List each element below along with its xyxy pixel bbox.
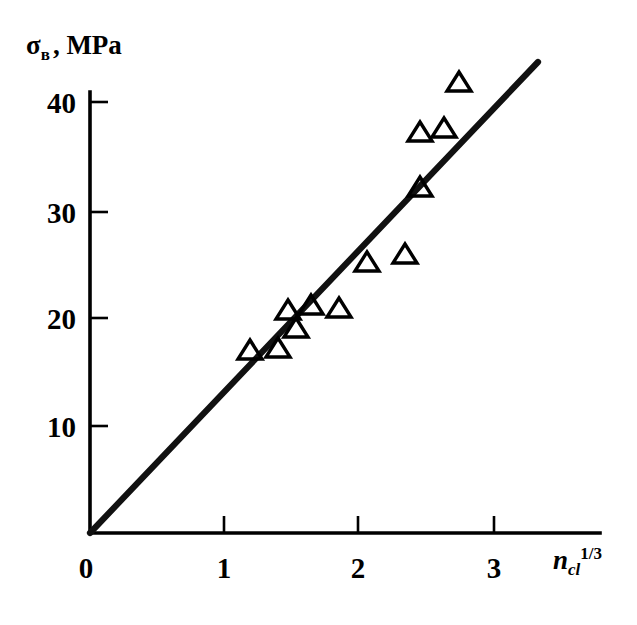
scatter-plot-canvas: 40 30 20 10 0 1 2 3 xyxy=(0,0,637,625)
x-tick-label-2: 2 xyxy=(351,552,366,584)
x-tick-label-0: 0 xyxy=(79,552,94,584)
x-axis-symbol: n xyxy=(553,545,568,575)
x-axis-subscript: cl xyxy=(568,560,580,579)
x-axis-ticks xyxy=(224,516,494,533)
axes-group xyxy=(90,92,600,533)
x-axis-tick-labels: 0 1 2 3 xyxy=(79,552,502,584)
y-tick-label-40: 40 xyxy=(47,87,76,119)
y-axis-symbol: σ xyxy=(26,30,41,60)
data-point-marker xyxy=(238,340,262,359)
x-axis-title: ncl1/3 xyxy=(553,545,602,578)
y-axis-ticks xyxy=(90,102,108,426)
y-axis-subscript: в xyxy=(41,45,50,64)
data-point-marker xyxy=(327,298,351,317)
y-axis-unit: , MPa xyxy=(53,30,122,60)
y-axis-title: σв, MPa xyxy=(26,32,122,63)
data-point-markers xyxy=(238,72,471,359)
y-tick-label-20: 20 xyxy=(47,303,76,335)
y-tick-label-30: 30 xyxy=(47,197,76,229)
data-point-marker xyxy=(432,118,456,137)
data-point-marker xyxy=(408,122,432,141)
x-tick-label-3: 3 xyxy=(487,552,502,584)
x-tick-label-1: 1 xyxy=(217,552,232,584)
data-point-marker xyxy=(393,244,417,263)
figure-root: 40 30 20 10 0 1 2 3 σв, MPa xyxy=(0,0,637,625)
y-axis-tick-labels: 40 30 20 10 xyxy=(47,87,76,443)
x-axis-superscript: 1/3 xyxy=(580,544,602,563)
y-tick-label-10: 10 xyxy=(47,411,76,443)
data-point-marker xyxy=(447,72,471,91)
